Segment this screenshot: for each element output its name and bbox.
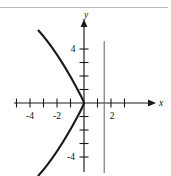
x-axis: -4 -2 2 x xyxy=(14,98,164,121)
y-tick-label--4: -4 xyxy=(67,152,75,162)
y-axis-arrowhead xyxy=(81,19,88,27)
x-axis-arrowhead xyxy=(148,100,156,107)
x-axis-label: x xyxy=(158,98,164,108)
x-tick-label--4: -4 xyxy=(26,111,34,121)
y-tick-label-4: 4 xyxy=(71,44,76,54)
y-axis-label: y xyxy=(83,10,89,20)
x-tick-label--2: -2 xyxy=(53,111,61,121)
parabola-figure: -4 -2 2 x 4 -4 y xyxy=(0,0,171,176)
x-tick-label-2: 2 xyxy=(110,111,115,121)
plot-canvas: -4 -2 2 x 4 -4 y xyxy=(0,0,171,176)
